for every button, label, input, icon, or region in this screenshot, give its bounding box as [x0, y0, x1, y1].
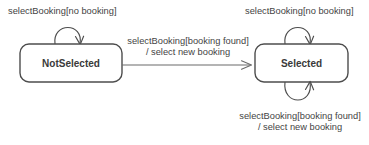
- self-loop-arc-selected-top: [285, 28, 311, 45]
- state-selected[interactable]: Selected: [255, 44, 348, 82]
- self-loop-arc-selected-bottom: [285, 82, 311, 100]
- state-label-selected: Selected: [281, 58, 322, 69]
- transition-not-selected-to-selected[interactable]: selectBooking[booking found] / select ne…: [122, 36, 252, 69]
- transition-label-not-selected-self-loop: selectBooking[no booking]: [8, 6, 117, 16]
- state-label-not-selected: NotSelected: [42, 58, 100, 69]
- transition-selected-self-loop-top[interactable]: [285, 28, 314, 45]
- transition-label-selected-self-loop-top: selectBooking[no booking]: [245, 6, 354, 16]
- transition-selected-self-loop-bottom[interactable]: [285, 81, 314, 100]
- transition-label-line-1: selectBooking[booking found]: [127, 36, 248, 46]
- transition-label-line-2: / select new booking: [146, 47, 230, 57]
- self-loop-arc-not-selected: [55, 28, 81, 45]
- transition-label-selected-self-loop-bottom-line-2: / select new booking: [258, 122, 342, 132]
- transition-not-selected-self-loop[interactable]: [55, 28, 84, 45]
- diagram-canvas: NotSelected selectBooking[booking found]…: [0, 0, 369, 145]
- state-not-selected[interactable]: NotSelected: [20, 44, 122, 82]
- transition-label-selected-self-loop-bottom-line-1: selectBooking[booking found]: [239, 111, 360, 121]
- state-machine-diagram: NotSelected selectBooking[booking found]…: [0, 0, 369, 145]
